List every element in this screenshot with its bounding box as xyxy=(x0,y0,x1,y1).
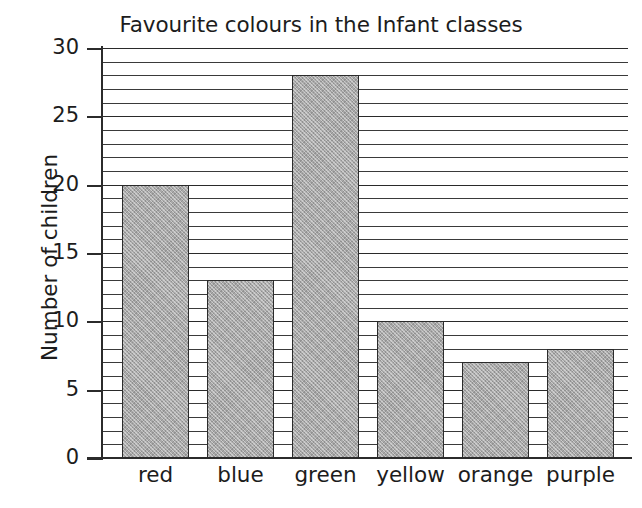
x-label-green: green xyxy=(283,464,368,486)
gridline xyxy=(101,157,628,158)
bar-green xyxy=(292,75,359,458)
y-tick-mark xyxy=(87,390,101,392)
gridline xyxy=(101,62,628,63)
gridline xyxy=(101,75,628,76)
gridline xyxy=(101,103,628,104)
bar-purple xyxy=(547,349,614,458)
y-tick-label: 0 xyxy=(0,447,79,468)
y-tick-label: 30 xyxy=(0,37,79,58)
y-tick-mark xyxy=(87,253,101,255)
y-tick-label: 10 xyxy=(0,310,79,331)
bar-chart: Favourite colours in the Infant classes … xyxy=(0,0,642,508)
y-tick-label: 15 xyxy=(0,242,79,263)
x-label-purple: purple xyxy=(538,464,623,486)
gridline xyxy=(101,144,628,145)
gridline xyxy=(101,89,628,90)
chart-title: Favourite colours in the Infant classes xyxy=(0,12,642,37)
y-tick-label: 25 xyxy=(0,105,79,126)
plot-area xyxy=(101,48,628,458)
x-label-red: red xyxy=(113,464,198,486)
gridline xyxy=(101,130,628,131)
y-tick-mark xyxy=(87,185,101,187)
x-label-yellow: yellow xyxy=(368,464,453,486)
x-label-blue: blue xyxy=(198,464,283,486)
y-tick-mark xyxy=(87,321,101,323)
y-tick-mark xyxy=(87,116,101,118)
x-label-orange: orange xyxy=(453,464,538,486)
gridline xyxy=(101,116,628,117)
y-tick-label: 5 xyxy=(0,379,79,400)
y-tick-label: 20 xyxy=(0,174,79,195)
bar-red xyxy=(122,185,189,458)
y-axis-line xyxy=(101,46,103,460)
gridline xyxy=(101,171,628,172)
x-axis-line xyxy=(87,457,632,459)
gridline xyxy=(101,48,628,49)
bar-yellow xyxy=(377,321,444,458)
bar-blue xyxy=(207,280,274,458)
y-tick-mark xyxy=(87,458,101,460)
bar-orange xyxy=(462,362,529,458)
y-tick-mark xyxy=(87,48,101,50)
